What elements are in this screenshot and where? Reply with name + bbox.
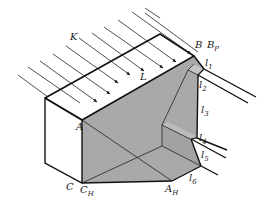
label-l: L: [139, 71, 147, 82]
label-ah: AH: [164, 183, 179, 197]
shadow-diagram: K L A B BP l1 l2 l3 l4 l5 l6 C CH AH: [0, 0, 271, 212]
label-b: B: [194, 39, 202, 50]
label-l5: l5: [201, 149, 209, 163]
label-l1: l1: [205, 57, 213, 71]
left-face: [45, 98, 82, 183]
label-l3: l3: [201, 104, 209, 118]
label-l2: l2: [199, 79, 207, 93]
label-k: K: [69, 31, 78, 42]
label-bp: BP: [206, 39, 219, 53]
label-ch: CH: [80, 184, 95, 198]
label-c: C: [66, 181, 74, 192]
label-l6: l6: [189, 172, 197, 186]
label-a: A: [75, 121, 83, 132]
